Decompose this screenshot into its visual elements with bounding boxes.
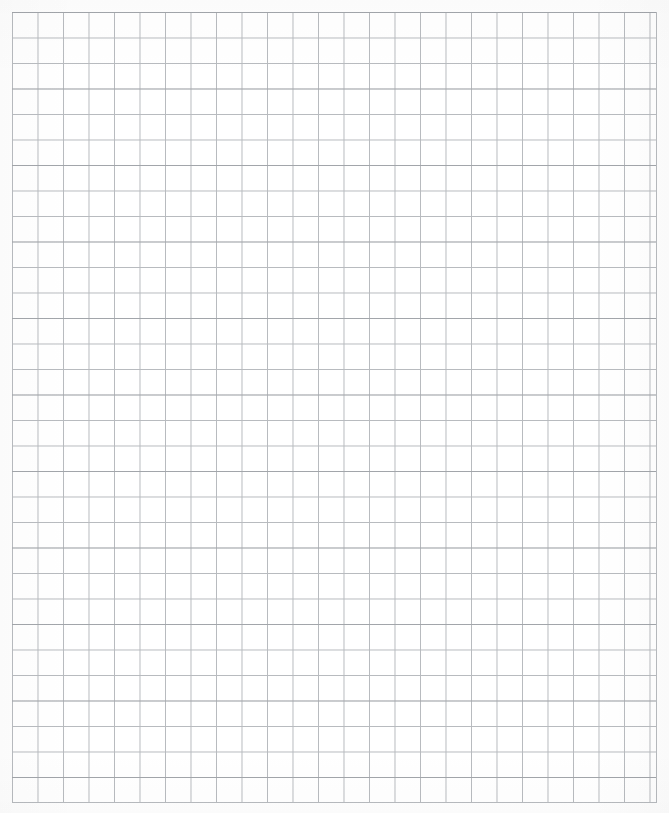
grid-emphasis-lines bbox=[12, 12, 657, 803]
grid-bottom-edge-rule bbox=[12, 802, 657, 803]
grid-right-edge-rule bbox=[656, 12, 657, 803]
grid-area bbox=[12, 12, 657, 803]
graph-paper-page bbox=[0, 0, 669, 813]
